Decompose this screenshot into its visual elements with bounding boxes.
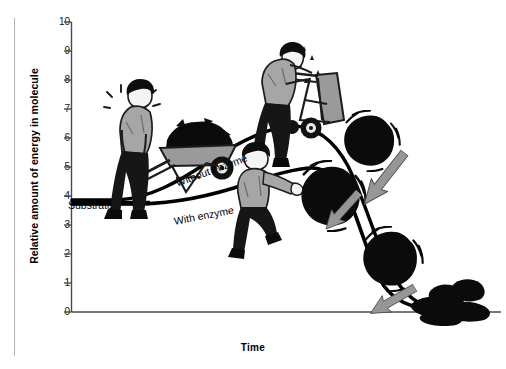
- activation-energy-figure: Relative amount of energy in molecule Ti…: [0, 0, 506, 369]
- broken-rock-pile: [411, 279, 490, 326]
- boulder: [363, 227, 422, 292]
- plot-canvas: [0, 0, 506, 369]
- label-substrate: Substrate: [68, 199, 113, 211]
- downhill-motion-arrow: [366, 279, 420, 321]
